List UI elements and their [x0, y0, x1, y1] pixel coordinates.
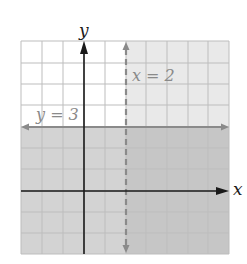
label-y-equals-3: y = 3 [35, 105, 79, 124]
y-axis-label: y [78, 20, 89, 40]
x-axis-label: x [233, 179, 243, 199]
graph-canvas: y x x = 2 y = 3 [0, 0, 247, 264]
y-axis-arrow-icon [80, 41, 88, 54]
label-x-equals-2: x = 2 [132, 66, 175, 85]
